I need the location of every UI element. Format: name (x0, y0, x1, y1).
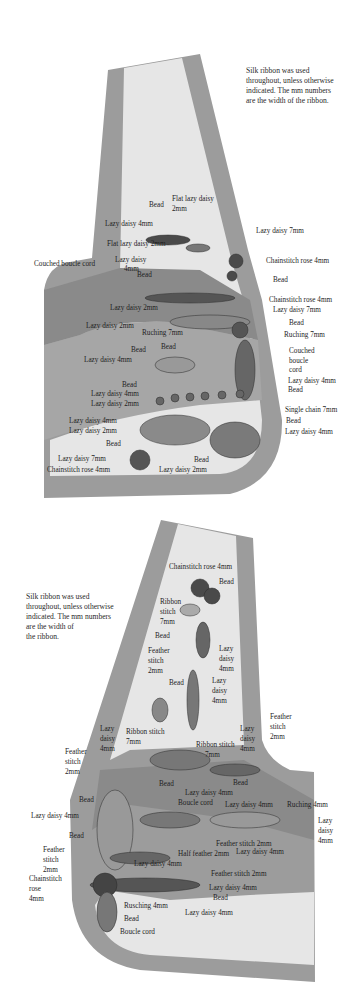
diagram-2: Silk ribbon was used throughout, unless … (0, 500, 360, 989)
stitch-label: Lazy (212, 677, 226, 687)
stitch-label: Bead (169, 679, 184, 689)
stitch-label: Ribbon stitch (196, 741, 235, 751)
stitch-label: Bead (213, 894, 228, 904)
stitch-label: Lazy daisy 4mm (185, 909, 233, 919)
stitch-label: Chainstitch rose 4mm (169, 563, 232, 573)
stitch-label: Lazy (318, 817, 332, 827)
stitch-label: Lazy daisy 4mm (31, 812, 79, 822)
stitch-label: Ruching 7mm (284, 331, 325, 341)
stitch-label: Boucle cord (178, 799, 213, 809)
stitch-label: Bead (286, 417, 301, 427)
stitch-label: Bead (233, 779, 248, 789)
ribbon-note: Silk ribbon was used throughout, unless … (246, 66, 334, 106)
stitch-label: 2mm (172, 205, 187, 215)
stitch-label: rose (29, 885, 41, 895)
stitch-label: Bead (273, 276, 288, 286)
stitch-label: Bead (219, 578, 234, 588)
stitch-label: stitch (160, 608, 176, 618)
stitch-label: Rusching 4mm (124, 902, 168, 912)
sleeve-shape-2 (0, 500, 360, 989)
stitch-label: stitch (148, 657, 164, 667)
stitch-label: Lazy daisy 2mm (91, 400, 139, 410)
stitch-label: cord (289, 366, 302, 376)
stitch-label: Bead (106, 440, 121, 450)
stitch-label: Lazy daisy 2mm (159, 466, 207, 476)
stitch-label: Couched boucle cord (34, 260, 95, 270)
stitch-label: Chainstitch rose 4mm (266, 257, 329, 267)
stitch-label: daisy (219, 655, 234, 665)
stitch-label: 4mm (219, 665, 234, 675)
note-line: the ribbon. (26, 632, 114, 642)
stitch-label: Couched (289, 347, 315, 357)
stitch-label: Lazy daisy 4mm (69, 417, 117, 427)
stitch-label: 2mm (65, 768, 80, 778)
stitch-label: Lazy (100, 725, 114, 735)
note-line: Silk ribbon was used (246, 66, 334, 76)
stitch-label: daisy (100, 735, 115, 745)
stitch-label: Lazy daisy 2mm (110, 304, 158, 314)
stitch-label: Lazy daisy 4mm (225, 801, 273, 811)
note-line: indicated. The mm numbers (26, 612, 114, 622)
stitch-label: Lazy daisy 4mm (91, 390, 139, 400)
note-line: are the width of (26, 622, 114, 632)
stitch-label: Lazy daisy 2mm (86, 322, 134, 332)
stitch-label: 2mm (148, 667, 163, 677)
stitch-label: Lazy daisy 7mm (273, 306, 321, 316)
note-line: indicated. The mm numbers (246, 86, 334, 96)
stitch-label: stitch (65, 758, 81, 768)
note-line: Silk ribbon was used (26, 592, 114, 602)
note-line: throughout, unless otherwise (246, 76, 334, 86)
stitch-label: Lazy daisy 4mm (105, 220, 153, 230)
stitch-label: Feather (148, 647, 170, 657)
stitch-label: daisy (318, 827, 333, 837)
stitch-label: Flat lazy daisy 2mm (107, 240, 166, 250)
stitch-label: Lazy (240, 725, 254, 735)
stitch-label: 4mm (100, 745, 115, 755)
stitch-label: Lazy daisy 4mm (84, 356, 132, 366)
stitch-label: Lazy (219, 645, 233, 655)
diagram-1: Silk ribbon was used throughout, unless … (0, 0, 360, 500)
stitch-label: Lazy daisy 2mm (69, 427, 117, 437)
stitch-label: Bead (155, 632, 170, 642)
stitch-label: daisy (212, 687, 227, 697)
stitch-label: Ruching 4mm (287, 801, 328, 811)
stitch-label: Bead (288, 386, 303, 396)
stitch-label: Bead (124, 915, 139, 925)
stitch-label: 4mm (29, 895, 44, 905)
stitch-label: Half feather 2mm (178, 850, 229, 860)
stitch-label: 7mm (126, 738, 141, 748)
stitch-label: 4mm (318, 837, 333, 847)
stitch-label: 4mm (212, 697, 227, 707)
stitch-label: stitch (270, 723, 286, 733)
stitch-label: Flat lazy daisy (172, 195, 214, 205)
stitch-label: Bead (131, 346, 146, 356)
stitch-label: Bead (149, 201, 164, 211)
stitch-label: Ribbon stitch (126, 728, 165, 738)
stitch-label: Bead (79, 796, 94, 806)
stitch-label: daisy (240, 735, 255, 745)
stitch-label: stitch (43, 856, 59, 866)
stitch-label: 7mm (205, 751, 220, 761)
stitch-label: Ruching 7mm (142, 329, 183, 339)
stitch-label: Feather (65, 748, 87, 758)
note-line: throughout, unless otherwise (26, 602, 114, 612)
stitch-label: Lazy daisy 7mm (58, 455, 106, 465)
stitch-label: Feather stitch 2mm (211, 870, 267, 880)
stitch-label: Chainstitch rose 4mm (47, 466, 110, 476)
stitch-label: Bead (161, 343, 176, 353)
stitch-label: Bead (69, 832, 84, 842)
stitch-label: Boucle cord (120, 928, 155, 938)
stitch-label: Chainstitch rose 4mm (269, 296, 332, 306)
stitch-label: Bead (194, 456, 209, 466)
stitch-label: Bead (137, 271, 152, 281)
stitch-label: Chainstitch (29, 875, 62, 885)
stitch-label: Lazy daisy 4mm (185, 789, 233, 799)
stitch-label: 7mm (160, 618, 175, 628)
stitch-label: Lazy daisy 4mm (285, 428, 333, 438)
stitch-label: Feather (43, 846, 65, 856)
stitch-label: Bead (289, 319, 304, 329)
stitch-label: Lazy daisy 7mm (256, 227, 304, 237)
stitch-label: Single chain 7mm (285, 406, 337, 416)
ribbon-note: Silk ribbon was used throughout, unless … (26, 592, 114, 642)
stitch-label: 4mm (240, 745, 255, 755)
